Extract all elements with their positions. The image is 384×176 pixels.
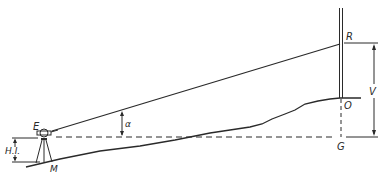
ground-profile [26,98,361,167]
leveling-diagram: E H.I. M α R O G V [0,0,384,176]
label-r: R [346,31,353,42]
leveling-rod [340,8,343,98]
instrument-icon [36,129,58,163]
diagram-canvas: E H.I. M α R O G V [0,0,384,176]
angle-arrow [120,111,124,136]
label-alpha: α [125,119,131,129]
label-v: V [369,86,377,97]
label-hi: H.I. [5,146,20,156]
label-o: O [344,100,352,111]
line-of-sight [52,44,340,131]
label-m: M [50,164,58,174]
label-g: G [337,141,345,152]
label-e: E [33,121,40,132]
